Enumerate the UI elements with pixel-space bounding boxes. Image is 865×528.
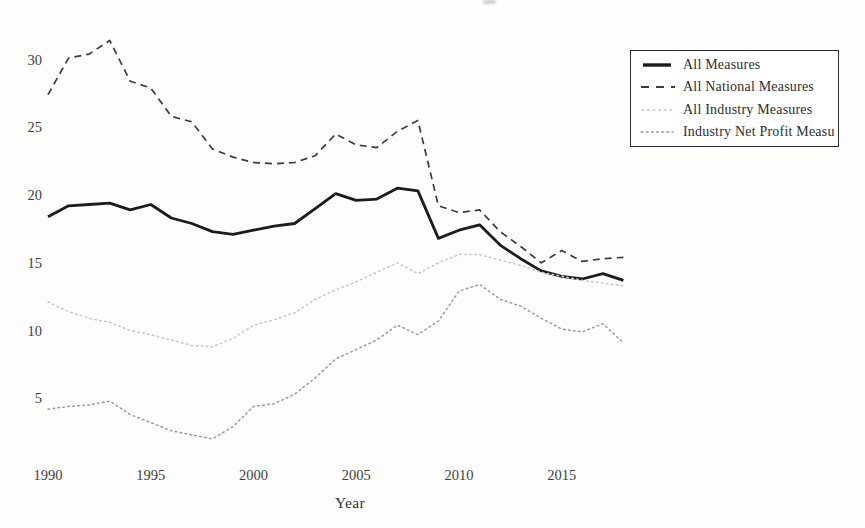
y-tick-label: 5 — [35, 390, 42, 406]
legend-label: Industry Net Profit Measu — [683, 124, 834, 140]
y-tick-label: 25 — [28, 119, 43, 135]
x-axis-title: Year — [0, 494, 700, 512]
x-tick-label: 2000 — [239, 467, 268, 483]
legend-label: All Industry Measures — [683, 102, 812, 118]
y-tick-label: 30 — [28, 52, 43, 68]
legend-item-all-measures: All Measures — [640, 54, 834, 76]
x-tick-label: 2005 — [342, 467, 371, 483]
legend-item-industry-net-profit: Industry Net Profit Measu — [640, 121, 834, 143]
x-tick-label: 1995 — [136, 467, 165, 483]
x-tick-label: 1990 — [34, 467, 63, 483]
legend-label: All National Measures — [683, 79, 814, 95]
figure: 51015202530199019952000200520102015 Year… — [0, 0, 865, 528]
y-tick-label: 10 — [28, 323, 43, 339]
legend: All Measures All National Measures All I… — [630, 50, 839, 147]
y-tick-label: 15 — [28, 255, 43, 271]
x-tick-label: 2015 — [547, 467, 576, 483]
series-line-industry-net-profit-measu — [48, 284, 623, 439]
x-tick-label: 2010 — [445, 467, 474, 483]
legend-item-all-national-measures: All National Measures — [640, 76, 834, 98]
legend-dotted-line-icon — [640, 127, 678, 137]
scan-artifact — [483, 0, 496, 4]
series-line-all-national-measures — [48, 41, 623, 263]
legend-dashed-line-icon — [640, 82, 678, 92]
y-tick-label: 20 — [28, 187, 43, 203]
legend-label: All Measures — [683, 57, 760, 73]
legend-solid-line-icon — [640, 60, 678, 70]
series-line-all-measures — [48, 188, 623, 280]
legend-light-dotted-line-icon — [640, 105, 678, 115]
legend-item-all-industry-measures: All Industry Measures — [640, 99, 834, 121]
